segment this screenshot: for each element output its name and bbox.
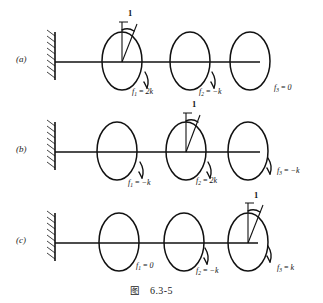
- unit-rotation-label-c: 1: [254, 190, 258, 200]
- force-label-c-1: f1 = 0: [136, 261, 154, 271]
- torsional-shaft-figure: (a) 1: [0, 0, 323, 303]
- row-tag-b: (b): [16, 144, 27, 154]
- fixed-wall-b: [47, 120, 55, 170]
- force-label-a-2: f2 = −k: [199, 87, 222, 97]
- fixed-wall-a: [47, 30, 55, 80]
- torque-arrowhead-c-3: [267, 256, 270, 262]
- force-label-b-3: f3 = −k: [277, 166, 300, 176]
- disk-b-1: [97, 122, 137, 180]
- disk-a-3: [230, 32, 270, 90]
- row-tag-c: (c): [16, 235, 26, 245]
- unit-rotation-marker-b: 1: [183, 99, 200, 152]
- unit-rotation-marker-c: 1: [245, 190, 263, 243]
- diagram-row-c: (c) 1 f1 = 0: [16, 190, 295, 276]
- diagram-row-a: (a) 1: [16, 8, 292, 97]
- caption-number: 6.3-5: [150, 285, 173, 296]
- force-label-a-3: f3 = 0: [274, 83, 292, 93]
- figure-caption: 图 6.3-5: [130, 285, 173, 296]
- force-label-a-1: f1 = 2k: [132, 87, 154, 97]
- force-label-b-2: f2 = 2k: [196, 176, 218, 186]
- force-label-c-3: f3 = k: [277, 263, 295, 273]
- torque-arrowhead-c-2: [204, 258, 207, 264]
- disk-c-1: [99, 213, 139, 271]
- disk-a-2: [170, 32, 210, 90]
- force-label-b-1: f1 = −k: [128, 178, 151, 188]
- caption-label: 图: [130, 285, 140, 296]
- fixed-wall-c: [47, 211, 55, 261]
- unit-rotation-label-a: 1: [128, 8, 132, 18]
- diagram-row-b: (b) 1 f1 = −k: [16, 99, 300, 188]
- torque-arrowhead-b-3: [267, 168, 270, 174]
- unit-rotation-marker-a: 1: [119, 8, 137, 62]
- disk-b-3: [228, 122, 268, 180]
- unit-rotation-label-b: 1: [192, 99, 196, 109]
- disk-c-2: [164, 213, 204, 271]
- force-label-c-2: f2 = −k: [196, 266, 219, 276]
- row-tag-a: (a): [16, 54, 27, 64]
